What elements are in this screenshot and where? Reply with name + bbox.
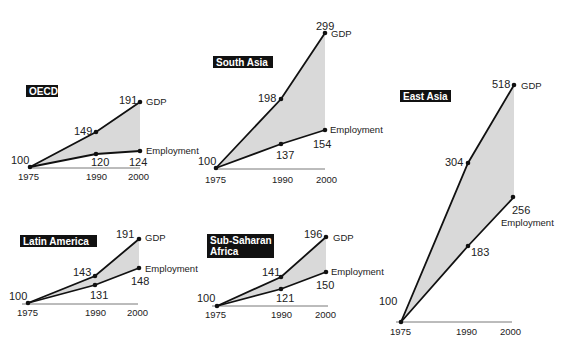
data-point [399,320,404,325]
series-label-gdp: GDP [333,232,354,243]
value-label: 148 [131,275,149,287]
value-label: 100 [197,292,215,304]
data-point [279,142,284,147]
value-label: 256 [512,204,530,216]
year-label: 1975 [17,307,38,318]
year-label: 2000 [127,307,148,318]
value-label: 143 [73,266,91,278]
data-point [137,237,142,242]
year-label: 1990 [85,307,106,318]
value-label: 124 [129,156,147,168]
panel-title: South Asia [216,57,268,68]
value-label: 196 [304,228,322,240]
series-label-employment: Employment [145,263,198,274]
value-label: 191 [119,94,137,106]
year-label: 2000 [316,174,337,185]
year-label: 2000 [500,326,521,337]
series-label-gdp: GDP [146,96,167,107]
data-point [279,97,284,102]
value-label: 141 [262,266,280,278]
data-point [512,83,517,88]
panel-latin-america: Latin America 100 143 191 GDP 131 148 Em… [9,228,198,318]
panel-title: OECD [29,86,58,97]
panel-title: East Asia [403,91,448,102]
series-label-employment: Employment [331,266,384,277]
value-label: 131 [90,289,108,301]
data-point [466,244,471,249]
series-label-employment: Employment [330,124,383,135]
year-label: 1975 [18,171,39,182]
panel-title-line2: Africa [210,246,239,257]
data-point [324,270,329,275]
panel-sub-saharan-africa: Sub-Saharan Africa 100 141 196 GDP 121 1… [197,228,384,320]
data-point [94,130,99,135]
panel-oecd: OECD 100 149 191 GDP 120 124 Employment … [11,85,199,182]
year-label: 1990 [86,171,107,182]
data-point [93,283,98,288]
series-label-gdp: GDP [331,28,352,39]
data-point [279,287,284,292]
series-label-gdp: GDP [145,232,166,243]
year-label: 1990 [456,326,477,337]
year-label: 1990 [271,309,292,320]
value-label: 100 [11,154,29,166]
data-point [93,274,98,279]
chart-canvas: OECD 100 149 191 GDP 120 124 Employment … [0,0,574,344]
data-point [323,128,328,133]
panel-east-asia: East Asia 100 304 518 GDP 183 256 Employ… [379,78,554,337]
year-label: 2000 [315,309,336,320]
data-point [324,235,329,240]
value-label: 304 [445,156,463,168]
year-label: 1975 [205,174,226,185]
panel-title: Latin America [23,236,89,247]
year-label: 1975 [205,309,226,320]
series-label-gdp: GDP [521,80,542,91]
data-point [215,304,220,309]
value-label: 100 [198,155,216,167]
data-point [138,100,143,105]
value-label: 100 [9,290,27,302]
value-label: 518 [492,78,510,90]
data-point [138,149,143,154]
value-label: 183 [471,246,489,258]
value-label: 154 [313,138,331,150]
value-label: 149 [74,125,92,137]
panel-south-asia: South Asia 100 198 299 GDP 137 154 Emplo… [198,20,383,185]
value-label: 137 [276,149,294,161]
year-label: 1990 [272,174,293,185]
year-label: 2000 [128,171,149,182]
year-label: 1975 [390,326,411,337]
value-label: 191 [116,228,134,240]
panel-title-line1: Sub-Saharan [210,235,272,246]
value-label: 198 [258,92,276,104]
value-label: 120 [91,156,109,168]
value-label: 150 [316,279,334,291]
data-point [137,266,142,271]
value-label: 100 [379,295,397,307]
value-label: 121 [276,292,294,304]
gap-area [401,85,514,322]
series-label-employment: Employment [146,145,199,156]
data-point [511,195,516,200]
data-point [466,161,471,166]
series-label-employment: Employment [501,217,554,228]
